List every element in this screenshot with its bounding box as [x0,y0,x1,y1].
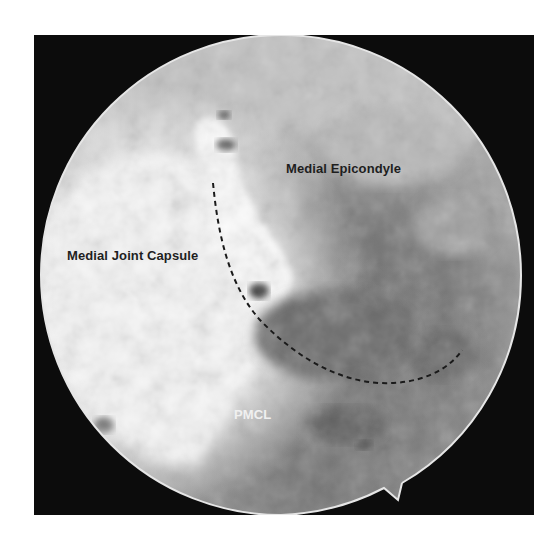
label-medial-joint-capsule: Medial Joint Capsule [67,248,198,263]
image-frame: Medial Epicondyle Medial Joint Capsule P… [34,35,534,515]
label-pmcl: PMCL [234,407,271,422]
arthroscopic-image [34,35,534,515]
label-medial-epicondyle: Medial Epicondyle [286,161,401,176]
